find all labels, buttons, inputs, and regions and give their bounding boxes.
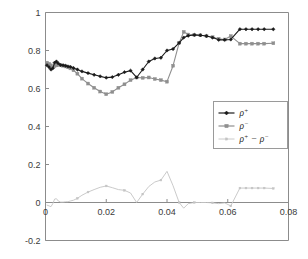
data-point-marker — [142, 193, 144, 195]
data-point-marker — [98, 75, 101, 78]
data-point-marker — [124, 189, 126, 191]
data-point-marker — [147, 76, 150, 79]
x-tick-label: 0.02 — [97, 207, 115, 217]
data-point-marker — [272, 188, 274, 190]
data-point-marker — [117, 86, 120, 89]
data-point-marker — [76, 197, 78, 199]
data-point-marker — [193, 202, 195, 204]
data-point-marker — [263, 42, 266, 45]
series-line — [47, 32, 273, 94]
series-rho_minus — [46, 30, 275, 95]
data-point-marker — [257, 187, 259, 189]
x-tick-label: 0.06 — [219, 207, 237, 217]
data-point-marker — [86, 71, 89, 74]
data-point-marker — [250, 28, 253, 31]
data-point-marker — [244, 28, 247, 31]
data-point-marker — [129, 79, 132, 82]
chart-legend: ρ+ρ−ρ+ − ρ− — [214, 102, 288, 149]
data-point-marker — [105, 93, 108, 96]
data-point-marker — [239, 187, 241, 189]
data-point-marker — [105, 76, 108, 79]
x-tick-label: 0.08 — [280, 207, 298, 217]
data-point-marker — [99, 90, 102, 93]
y-tick-label: 0 — [35, 198, 40, 208]
chart-figure: -0.200.20.40.60.8100.020.040.060.08ρ+ρ−ρ… — [0, 0, 308, 259]
y-tick-label: -0.2 — [25, 236, 41, 246]
data-point-marker — [141, 76, 144, 79]
data-point-marker — [92, 73, 95, 76]
data-point-marker — [225, 138, 227, 140]
y-tick-label: 0.2 — [28, 160, 41, 170]
data-point-marker — [272, 28, 275, 31]
data-point-marker — [166, 80, 169, 83]
y-tick-label: 0.8 — [28, 46, 41, 56]
data-point-marker — [272, 42, 275, 45]
data-point-marker — [245, 187, 247, 189]
data-point-marker — [244, 42, 247, 45]
data-point-marker — [251, 187, 253, 189]
x-tick-label: 0.04 — [158, 207, 176, 217]
data-point-marker — [117, 73, 120, 76]
data-point-marker — [111, 90, 114, 93]
data-point-marker — [87, 191, 89, 193]
data-point-marker — [263, 187, 265, 189]
series-rho_plus — [45, 28, 275, 80]
data-point-marker — [153, 78, 156, 81]
data-point-marker — [225, 124, 228, 127]
data-point-marker — [263, 28, 266, 31]
data-point-marker — [238, 42, 241, 45]
data-point-marker — [159, 79, 162, 82]
data-point-marker — [212, 202, 214, 204]
data-point-marker — [80, 77, 83, 80]
y-tick-label: 0.6 — [28, 84, 41, 94]
data-point-marker — [229, 35, 232, 38]
data-point-marker — [178, 202, 180, 204]
y-tick-label: 0.4 — [28, 122, 41, 132]
data-point-marker — [256, 28, 259, 31]
line-chart: -0.200.20.40.60.8100.020.040.060.08ρ+ρ−ρ… — [0, 0, 308, 259]
data-point-marker — [160, 179, 162, 181]
data-point-marker — [257, 42, 260, 45]
data-point-marker — [76, 72, 79, 75]
data-point-marker — [123, 83, 126, 86]
legend-label: ρ+ − ρ− — [239, 133, 269, 144]
data-point-marker — [182, 30, 185, 33]
data-point-marker — [80, 70, 83, 73]
data-point-marker — [230, 205, 232, 207]
data-point-marker — [111, 75, 114, 78]
data-point-marker — [172, 64, 175, 67]
data-point-marker — [76, 68, 79, 71]
data-point-marker — [87, 82, 90, 85]
data-point-marker — [123, 70, 126, 73]
data-point-marker — [93, 86, 96, 89]
x-tick-label: 0 — [43, 207, 48, 217]
data-point-marker — [251, 42, 254, 45]
y-tick-label: 1 — [35, 8, 40, 18]
data-point-marker — [105, 185, 107, 187]
